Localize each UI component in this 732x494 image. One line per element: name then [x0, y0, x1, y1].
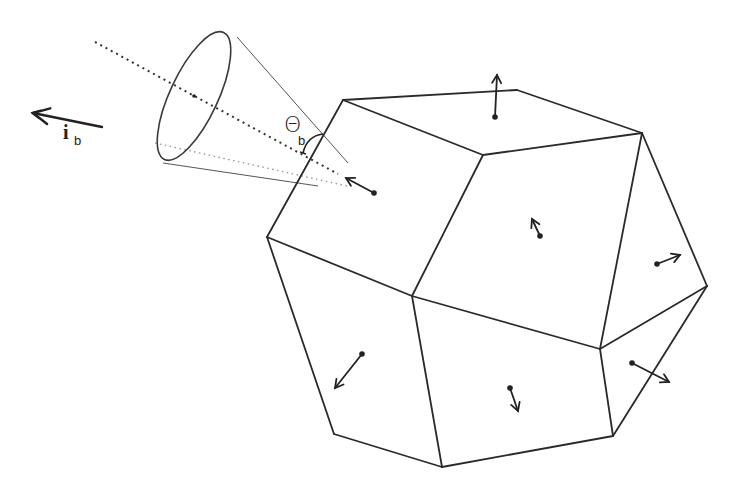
beam-vector-label: i — [63, 122, 69, 142]
normal-arrow-shaft — [335, 354, 362, 388]
face-center-dot — [507, 385, 513, 391]
face-center-dot — [371, 190, 377, 196]
polyhedron-edge-HG — [600, 286, 707, 349]
normal-arrow-lower-left — [335, 351, 365, 388]
beam-axis-dotted-line — [95, 42, 338, 174]
theta-subscript-text: b — [298, 133, 305, 148]
normal-arrow-shaft — [495, 75, 497, 117]
polyhedron-edge-FH — [412, 296, 600, 349]
face-center-dot — [537, 233, 543, 239]
cone-upper-edge — [237, 37, 348, 163]
polyhedron-edge-CH — [600, 133, 642, 349]
polyhedron-edge-GK — [613, 286, 707, 436]
face-normal-arrows — [335, 75, 680, 411]
normal-arrow-shaft — [632, 363, 669, 382]
normal-arrow-upper-right — [654, 254, 680, 267]
polyhedron-edge-DF — [412, 155, 483, 296]
normal-arrow-upper-left — [346, 178, 377, 196]
polyhedron-edge-AB — [343, 90, 517, 100]
polyhedron-edge-AD — [343, 100, 483, 155]
face-center-dot — [654, 261, 660, 267]
normal-arrow-bottom — [507, 385, 519, 411]
polyhedron-edge-FJ — [412, 296, 442, 467]
polyhedron-edge-IJ — [334, 434, 442, 467]
polyhedron-edge-EF — [267, 237, 412, 296]
angle-arc — [303, 134, 323, 153]
polyhedron-edge-BC — [517, 90, 642, 133]
cone-center-dot — [192, 94, 196, 98]
polyhedron-edge-EI — [267, 237, 334, 434]
face-center-dot — [359, 351, 365, 357]
face-center-dot — [629, 360, 635, 366]
face-center-dot — [492, 114, 498, 120]
polyhedron-edge-JK — [442, 436, 613, 467]
acceptance-cone — [95, 22, 348, 186]
theta-subscript: b — [298, 134, 305, 147]
normal-arrow-top — [492, 75, 501, 120]
polyhedron-edge-CG — [642, 133, 707, 286]
polyhedron-beam-diagram — [0, 0, 732, 494]
beam-vector-symbol: i — [63, 121, 69, 143]
cone-lower-dotted-line — [155, 143, 347, 186]
beam-vector-subscript-text: b — [74, 133, 81, 148]
beam-vector-subscript: b — [74, 134, 81, 147]
polyhedron-edge-AE — [267, 100, 343, 237]
polyhedron-edge-DC — [483, 133, 642, 155]
cone-lower-edge — [163, 163, 318, 186]
normal-arrow-center — [531, 219, 542, 239]
polyhedron-edge-HK — [600, 349, 613, 436]
